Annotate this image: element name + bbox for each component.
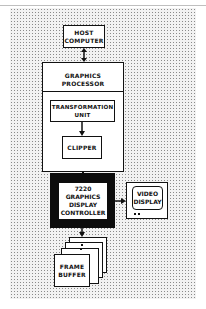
transformation-unit-label: TRANSFORMATION UNIT xyxy=(52,103,114,119)
ellipsis-dot xyxy=(80,248,82,250)
gdc-box: 7220 GRAPHICS DISPLAY CONTROLLER xyxy=(59,183,107,219)
host-computer-box: HOST COMPUTER xyxy=(63,25,105,48)
host-computer-label: HOST COMPUTER xyxy=(64,29,103,45)
frame-buffer-label: FRAME BUFFER xyxy=(58,263,86,279)
monitor-knob-icon xyxy=(138,213,140,215)
graphics-processor-divider xyxy=(42,91,124,92)
graphics-processor-label: GRAPHICS PROCESSOR xyxy=(62,72,105,88)
down-arrow-icon xyxy=(78,228,86,237)
transformation-unit-box: TRANSFORMATION UNIT xyxy=(50,100,115,122)
top-rule xyxy=(0,5,206,6)
monitor-knob-icon xyxy=(134,213,136,215)
down-arrow-icon xyxy=(78,122,86,136)
video-display-screen: VIDEO DISPLAY xyxy=(132,186,163,210)
frame-buffer-box: FRAME BUFFER xyxy=(54,254,90,287)
ellipsis-dot xyxy=(81,244,83,246)
bidirectional-arrow-icon xyxy=(80,48,88,62)
clipper-box: CLIPPER xyxy=(62,136,102,159)
right-arrow-icon xyxy=(115,197,126,205)
gdc-label: 7220 GRAPHICS DISPLAY CONTROLLER xyxy=(61,185,106,217)
clipper-label: CLIPPER xyxy=(67,144,96,152)
video-display-label: VIDEO DISPLAY xyxy=(133,190,161,206)
